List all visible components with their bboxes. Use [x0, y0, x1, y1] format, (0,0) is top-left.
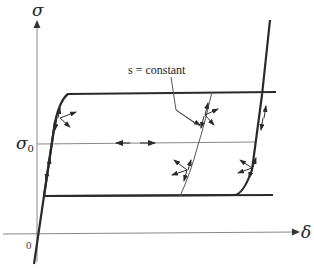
annotation-leader-line [171, 77, 197, 124]
diagram-canvas: σ δ 0 σ0 s = constant [0, 0, 314, 269]
origin-label: 0 [26, 240, 32, 251]
elastic-loading-line [34, 196, 44, 264]
sigma0-label: σ0 [16, 135, 34, 152]
x-axis [3, 229, 300, 236]
s-constant-annotation: s = constant [128, 64, 185, 76]
hysteresis-loop-curve [44, 20, 276, 196]
y-axis-arrow-icon [34, 20, 41, 28]
x-axis-arrow-icon [292, 229, 300, 236]
x-axis-label: δ [301, 224, 311, 241]
y-axis-label: σ [32, 2, 44, 19]
sigma0-label-sub: 0 [28, 143, 34, 154]
sigma0-label-main: σ [16, 133, 28, 153]
